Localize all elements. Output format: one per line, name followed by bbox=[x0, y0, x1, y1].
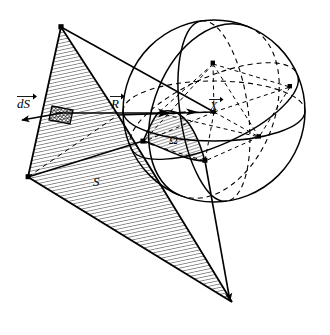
label-omega: Ω bbox=[169, 133, 178, 147]
node-top-marker bbox=[211, 61, 215, 65]
label-R: R bbox=[110, 96, 119, 111]
label-X: X bbox=[209, 99, 218, 113]
node-lower-right-marker bbox=[257, 134, 261, 138]
label-dS-group: dS bbox=[17, 94, 37, 111]
corner-marker-top bbox=[58, 24, 63, 29]
node-right-marker bbox=[288, 84, 292, 88]
corner-marker-left bbox=[26, 174, 31, 179]
solid-angle-figure: dS R X S Ω bbox=[0, 0, 330, 335]
label-S: S bbox=[93, 174, 100, 189]
label-dS: dS bbox=[17, 96, 31, 111]
figure-canvas: dS R X S Ω bbox=[0, 0, 330, 335]
dS-accent-arrowhead bbox=[33, 94, 37, 100]
